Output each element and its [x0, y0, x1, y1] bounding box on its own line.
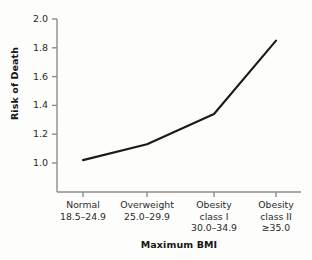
xtick-obesity-ii-line-3: ≥35.0: [245, 222, 307, 234]
xtick-normal-line-1: Normal: [50, 199, 116, 211]
risk-of-death-data-line: [83, 41, 276, 161]
xtick-label-overweight: Overweight 25.0–29.9: [111, 199, 183, 222]
ytick-label-1-2: 1.2: [22, 128, 48, 139]
ytick-label-2-0: 2.0: [22, 13, 48, 24]
y-axis-title: Risk of Death: [9, 42, 20, 126]
ytick-label-1-8: 1.8: [22, 42, 48, 53]
xtick-obesity-i-line-2: class I: [181, 211, 247, 223]
xtick-overweight-line-2: 25.0–29.9: [111, 211, 183, 223]
xtick-label-normal: Normal 18.5–24.9: [50, 199, 116, 222]
xtick-overweight-line-1: Overweight: [111, 199, 183, 211]
ytick-label-1-6: 1.6: [22, 71, 48, 82]
ytick-label-1-4: 1.4: [22, 99, 48, 110]
risk-of-death-line-chart: 2.0 1.8 1.6 1.4 1.2 1.0 Normal 18.5–24.9…: [0, 0, 312, 260]
xtick-obesity-i-line-3: 30.0–34.9: [181, 222, 247, 234]
xtick-label-obesity-class-ii: Obesity class II ≥35.0: [245, 199, 307, 234]
xtick-obesity-ii-line-1: Obesity: [245, 199, 307, 211]
xtick-obesity-i-line-1: Obesity: [181, 199, 247, 211]
xtick-normal-line-2: 18.5–24.9: [50, 211, 116, 223]
x-axis-title: Maximum BMI: [56, 239, 302, 250]
x-axis-ticks: [83, 192, 276, 197]
ytick-label-1-0: 1.0: [22, 157, 48, 168]
xtick-obesity-ii-line-2: class II: [245, 211, 307, 223]
xtick-label-obesity-class-i: Obesity class I 30.0–34.9: [181, 199, 247, 234]
y-axis-ticks: [52, 19, 57, 163]
